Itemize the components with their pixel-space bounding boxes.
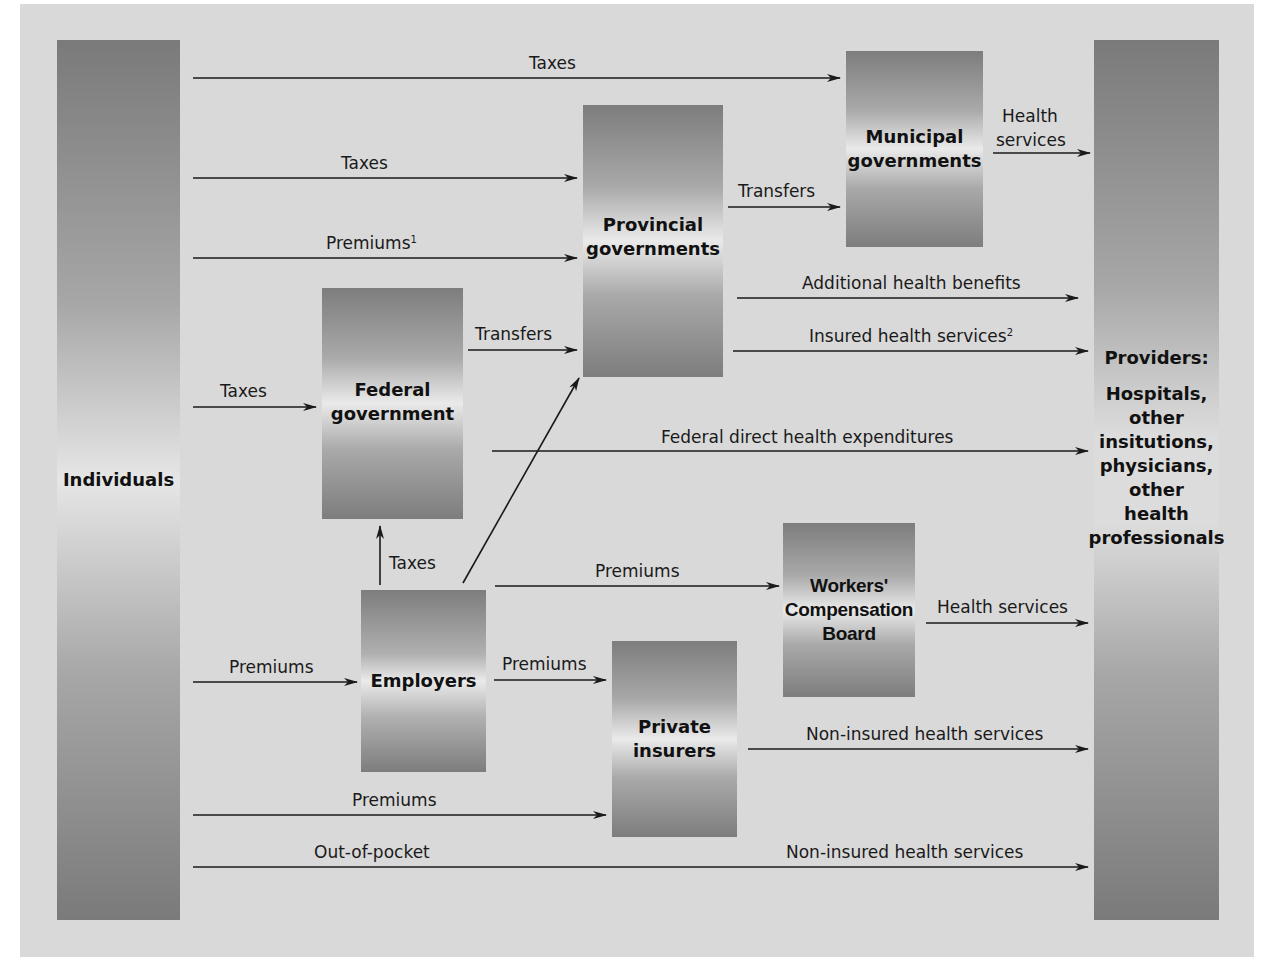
providers-line: professionals [1089,526,1225,550]
node-private-insurers: Private insurers [612,641,737,837]
providers-line: other [1129,406,1184,430]
node-workers-compensation-board: Workers' Compensation Board [783,523,915,697]
wcb-label-1: Workers' [810,574,888,598]
label-noninsured-private: Non-insured health services [806,724,1043,744]
node-providers: Providers: Hospitals, other insitutions,… [1094,40,1219,920]
private-label-2: insurers [633,739,716,763]
label-premiums-emp-private: Premiums [502,654,587,674]
label-premiums-private: Premiums [352,790,437,810]
footnote-2: 2 [1007,327,1013,338]
providers-line: other [1129,478,1184,502]
node-individuals: Individuals [57,40,180,920]
premiums-text: Premiums [326,233,411,253]
label-additional-benefits: Additional health benefits [802,273,1021,293]
wcb-label-2: Compensation [785,598,913,622]
node-provincial-governments: Provincial governments [583,105,723,377]
label-transfers-prov-muni: Transfers [738,181,815,201]
individuals-label: Individuals [63,468,174,492]
label-health-services-muni-1: Health [1002,106,1058,126]
municipal-label-1: Municipal [866,125,964,149]
label-taxes-provincial: Taxes [341,153,388,173]
label-taxes-federal: Taxes [220,381,267,401]
node-employers: Employers [361,590,486,772]
label-premiums-employers: Premiums [229,657,314,677]
label-insured-services: Insured health services2 [809,326,1013,346]
label-health-services-wcb: Health services [937,597,1068,617]
wcb-label-3: Board [822,622,875,646]
providers-line: Hospitals, [1106,382,1208,406]
label-federal-direct: Federal direct health expenditures [661,427,953,447]
federal-label-1: Federal [354,378,430,402]
label-premiums-provincial: Premiums1 [326,233,417,253]
label-noninsured-oop: Non-insured health services [786,842,1023,862]
federal-label-2: government [331,402,454,426]
providers-line: health [1124,502,1189,526]
footnote-1: 1 [411,234,417,245]
label-out-of-pocket: Out-of-pocket [314,842,430,862]
providers-line: physicians, [1100,454,1214,478]
label-health-services-muni-2: services [996,130,1066,150]
node-municipal-governments: Municipal governments [846,51,983,247]
employers-label: Employers [370,669,476,693]
label-taxes-municipal: Taxes [529,53,576,73]
private-label-1: Private [638,715,711,739]
provincial-label-2: governments [586,237,720,261]
municipal-label-2: governments [848,149,982,173]
providers-title: Providers: [1104,346,1208,370]
node-federal-government: Federal government [322,288,463,519]
label-taxes-employers: Taxes [389,553,436,573]
insured-text: Insured health services [809,326,1007,346]
label-transfers-fed-prov: Transfers [475,324,552,344]
label-premiums-wcb: Premiums [595,561,680,581]
provincial-label-1: Provincial [603,213,703,237]
providers-line: insitutions, [1099,430,1214,454]
